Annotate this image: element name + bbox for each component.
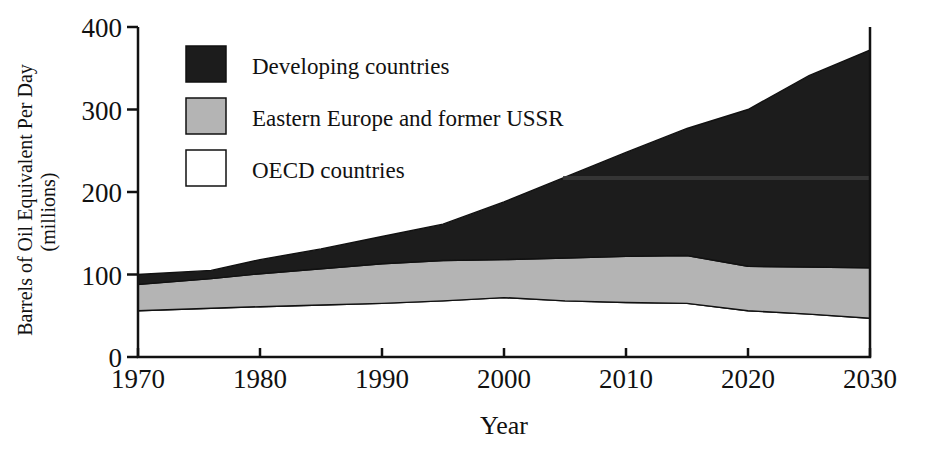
y-axis-title-line2: (millions) [37, 173, 60, 252]
x-tick-label: 2030 [843, 364, 897, 394]
y-tick-label: 200 [82, 178, 123, 208]
legend-swatch-0 [186, 46, 226, 82]
y-axis-ticks-group: 0100200300400 [82, 13, 139, 373]
x-tick-label: 2010 [599, 364, 653, 394]
area-chart-svg: 0100200300400 19701980199020002010202020… [0, 0, 932, 453]
x-tick-label: 1990 [355, 364, 409, 394]
x-tick-label: 1980 [233, 364, 287, 394]
legend-swatch-2 [186, 150, 226, 186]
x-tick-label: 2000 [477, 364, 531, 394]
chart-figure: 0100200300400 19701980199020002010202020… [0, 0, 932, 453]
legend-label-1: Eastern Europe and former USSR [252, 106, 564, 131]
legend-swatch-1 [186, 98, 226, 134]
y-axis-title: Barrels of Oil Equivalent Per Day (milli… [14, 64, 60, 336]
y-axis-title-line1: Barrels of Oil Equivalent Per Day [14, 64, 37, 336]
legend-label-0: Developing countries [252, 54, 449, 79]
y-tick-label: 100 [82, 261, 123, 291]
x-tick-label: 2020 [721, 364, 775, 394]
legend-label-2: OECD countries [252, 158, 405, 183]
y-tick-label: 300 [82, 96, 123, 126]
x-tick-label: 1970 [111, 364, 165, 394]
y-tick-label: 400 [82, 13, 123, 43]
x-axis-title: Year [480, 411, 528, 440]
scan-artifact-streak [563, 176, 870, 180]
